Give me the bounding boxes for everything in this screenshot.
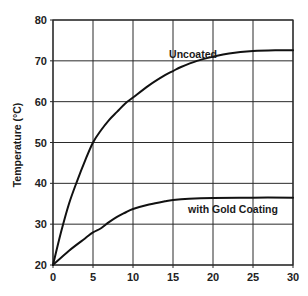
x-tick-label: 5 (90, 271, 96, 283)
x-tick-label: 15 (167, 271, 179, 283)
y-tick-label: 40 (35, 177, 47, 189)
curve-annotations: Uncoatedwith Gold Coating (169, 48, 278, 215)
x-axis-ticks: 051015202530 (50, 271, 299, 283)
y-tick-label: 80 (35, 14, 47, 26)
y-tick-label: 70 (35, 55, 47, 67)
temperature-chart: 20304050607080 051015202530 Temperature … (0, 0, 308, 296)
gold-coating-label: with Gold Coating (187, 203, 278, 215)
y-tick-label: 30 (35, 218, 47, 230)
y-tick-label: 20 (35, 259, 47, 271)
x-tick-label: 0 (50, 271, 56, 283)
y-tick-label: 60 (35, 96, 47, 108)
x-tick-label: 10 (127, 271, 139, 283)
x-tick-label: 25 (247, 271, 259, 283)
x-tick-label: 20 (207, 271, 219, 283)
y-axis-label: Temperature (°C) (11, 103, 23, 188)
y-tick-label: 50 (35, 137, 47, 149)
x-tick-label: 30 (287, 271, 299, 283)
y-axis-ticks: 20304050607080 (35, 14, 47, 271)
uncoated-label: Uncoated (169, 48, 217, 60)
